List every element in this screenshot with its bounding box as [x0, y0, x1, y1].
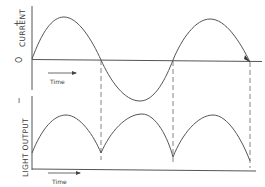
- current-axis-label: CURRENT: [18, 9, 27, 47]
- zero-label: O: [15, 57, 24, 63]
- light-axis-label: LIGHT OUTPUT: [21, 118, 30, 177]
- light-tick-mark: I: [18, 97, 20, 105]
- top-time-label: Time: [49, 78, 65, 85]
- waveform-diagram: + CURRENT O Time I LIGHT OUTPUT Time: [0, 0, 265, 187]
- light-baseline: [32, 169, 256, 171]
- light-output-wave: [32, 114, 250, 161]
- current-zero-line: [32, 60, 262, 62]
- top-time-arrow-head: [72, 71, 77, 75]
- bottom-time-arrow-head: [76, 171, 81, 175]
- bottom-time-label: Time: [51, 178, 67, 185]
- current-sine-wave: [32, 17, 250, 101]
